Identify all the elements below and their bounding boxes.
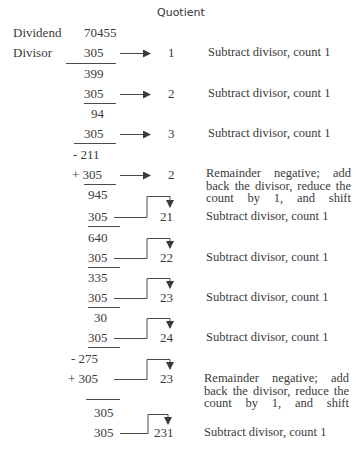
diagram-lines: [0, 0, 358, 452]
shift-arrow-icon: [114, 279, 170, 299]
shift-arrow-icon: [114, 360, 170, 380]
shift-arrow-icon: [114, 197, 170, 218]
shift-arrow-icon: [120, 415, 168, 434]
shift-arrow-icon: [114, 319, 170, 339]
shift-arrow-icon: [114, 239, 170, 259]
